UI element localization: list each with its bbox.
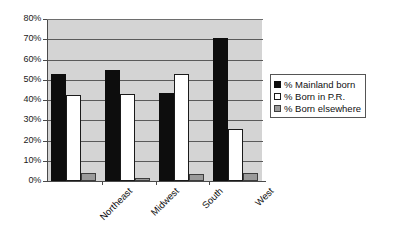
chart-legend: % Mainland born % Born in P.R. % Born el… xyxy=(270,74,366,118)
y-axis-tick-mark xyxy=(43,39,47,40)
y-axis-tick-label: 0% xyxy=(1,176,41,185)
legend-item: % Born elsewhere xyxy=(274,102,361,114)
legend-label-born-in-pr: % Born in P.R. xyxy=(284,91,345,102)
legend-item: % Mainland born xyxy=(274,78,361,90)
y-axis-tick-label: 80% xyxy=(1,14,41,23)
bar xyxy=(243,173,258,181)
y-axis-tick-mark xyxy=(43,80,47,81)
bar-chart: 0%10%20%30%40%50%60%70%80% % Mainland bo… xyxy=(0,0,396,236)
bar xyxy=(105,70,120,181)
legend-label-born-elsewhere: % Born elsewhere xyxy=(284,103,361,114)
x-axis-label: South xyxy=(200,186,225,211)
bar xyxy=(213,38,228,181)
gridline xyxy=(48,80,263,81)
y-axis-tick-mark xyxy=(43,60,47,61)
gridline xyxy=(48,60,263,61)
bar xyxy=(174,74,189,181)
legend-swatch-born-elsewhere xyxy=(274,105,281,112)
legend-swatch-mainland-born xyxy=(274,81,281,88)
plot-area xyxy=(47,19,262,181)
bar xyxy=(228,129,243,181)
bar xyxy=(66,95,81,181)
y-axis-tick-label: 40% xyxy=(1,95,41,104)
bar xyxy=(159,93,174,181)
bar xyxy=(51,74,66,181)
legend-label-mainland-born: % Mainland born xyxy=(284,79,355,90)
x-axis-label: West xyxy=(253,186,275,208)
y-axis: 0%10%20%30%40%50%60%70%80% xyxy=(0,0,41,236)
legend-item: % Born in P.R. xyxy=(274,90,361,102)
bar xyxy=(120,94,135,181)
y-axis-tick-label: 70% xyxy=(1,34,41,43)
x-axis-label: Midwest xyxy=(150,186,182,218)
y-axis-tick-label: 60% xyxy=(1,55,41,64)
y-axis-tick-label: 30% xyxy=(1,115,41,124)
bar xyxy=(81,173,96,181)
y-axis-tick-label: 50% xyxy=(1,75,41,84)
legend-swatch-born-in-pr xyxy=(274,93,281,100)
y-axis-tick-mark xyxy=(43,141,47,142)
y-axis-tick-mark xyxy=(43,100,47,101)
y-axis-tick-mark xyxy=(43,181,47,182)
x-axis-line xyxy=(44,181,266,182)
bar xyxy=(189,174,204,181)
y-axis-tick-mark xyxy=(43,161,47,162)
plot-top-border xyxy=(47,19,263,20)
x-axis-label: Northeast xyxy=(98,186,134,222)
y-axis-tick-mark xyxy=(43,120,47,121)
y-axis-tick-label: 10% xyxy=(1,156,41,165)
gridline xyxy=(48,39,263,40)
y-axis-tick-mark xyxy=(43,19,47,20)
y-axis-tick-label: 20% xyxy=(1,136,41,145)
